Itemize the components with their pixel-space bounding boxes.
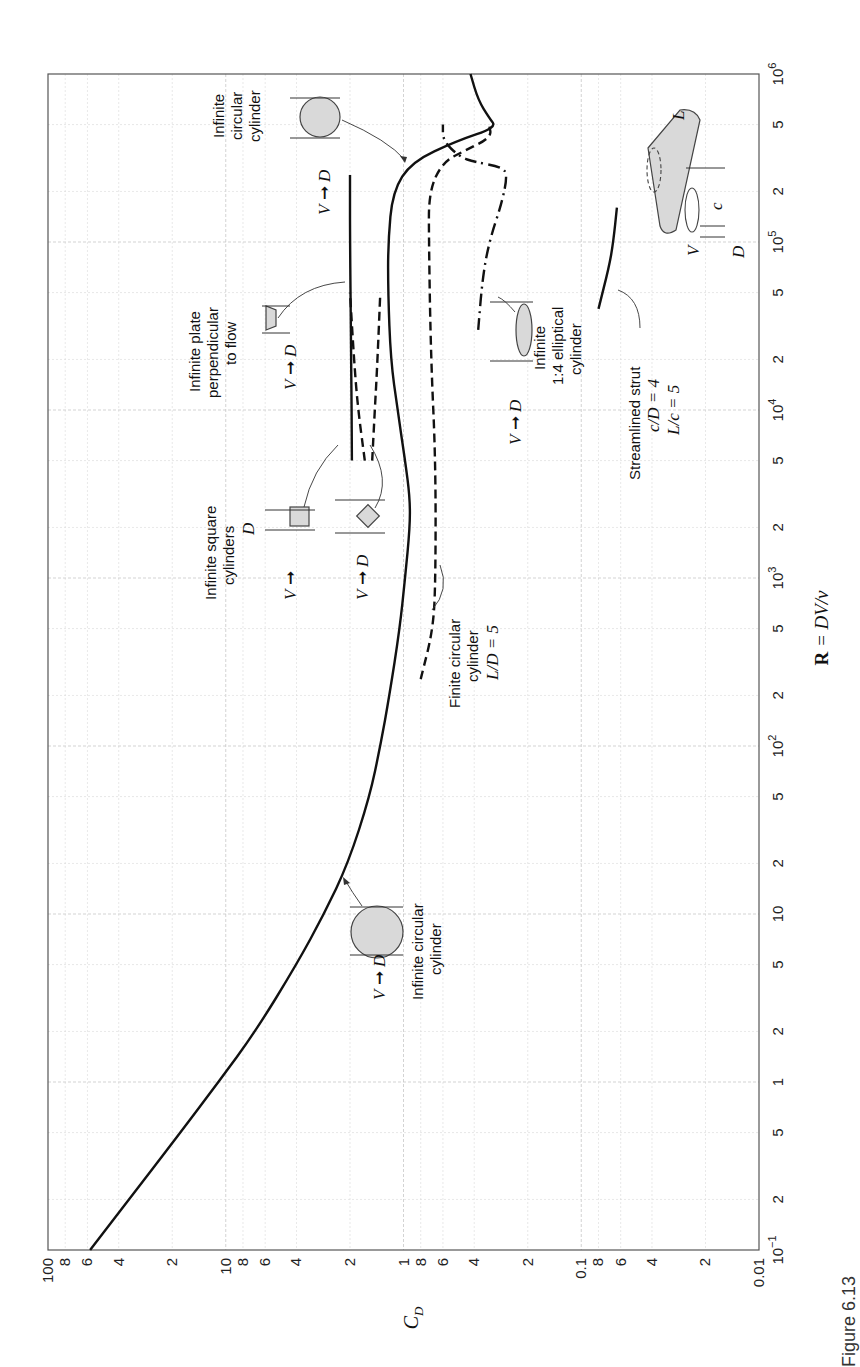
- re-tick-label: 102: [766, 735, 786, 758]
- re-tick-label: 105: [766, 231, 786, 254]
- cd-tick-label: 10: [217, 1258, 234, 1275]
- re-tick-label: 2: [769, 691, 786, 699]
- svg-text:106: 106: [766, 63, 786, 86]
- svg-text:perpendicular: perpendicular: [204, 307, 221, 398]
- svg-text:1:4 elliptical: 1:4 elliptical: [549, 307, 566, 385]
- grid-lines: [48, 74, 759, 1250]
- svg-text:5: 5: [769, 120, 786, 128]
- svg-text:6: 6: [612, 1258, 629, 1266]
- svg-text:2: 2: [769, 355, 786, 363]
- cd-tick-label: 1: [395, 1258, 412, 1266]
- svg-text:5: 5: [769, 288, 786, 296]
- svg-text:Finite circular: Finite circular: [446, 619, 463, 708]
- svg-text:10−1: 10−1: [766, 1235, 786, 1264]
- re-tick-label: 104: [766, 399, 786, 422]
- re-tick-label: 5: [769, 624, 786, 632]
- cd-tick-label: 0.1: [572, 1258, 589, 1279]
- cd-tick-label: 100: [39, 1258, 56, 1283]
- re-tick-label: 5: [769, 120, 786, 128]
- svg-text:104: 104: [766, 399, 786, 422]
- drag-coefficient-chart: 1008642108642186420.186420.01 10−1251251…: [0, 0, 860, 1367]
- annotation-infinite-square-cylinders: Infinite square cylinders D V ➞ V ➞ D: [202, 445, 385, 600]
- svg-text:1: 1: [395, 1258, 412, 1266]
- re-axis-ticks: 10−125125102510225103251042510525106: [766, 63, 786, 1265]
- svg-text:V ➞ D: V ➞ D: [353, 554, 372, 600]
- svg-text:8: 8: [412, 1258, 429, 1266]
- svg-text:V ➞ D: V ➞ D: [370, 954, 389, 1000]
- svg-text:10: 10: [769, 906, 786, 923]
- svg-text:102: 102: [766, 735, 786, 758]
- svg-text:V ➞ D: V ➞ D: [315, 169, 334, 215]
- re-tick-label: 2: [769, 187, 786, 195]
- re-tick-label: 2: [769, 1195, 786, 1203]
- svg-text:6: 6: [256, 1258, 273, 1266]
- svg-text:circular: circular: [228, 92, 245, 140]
- svg-text:8: 8: [589, 1258, 606, 1266]
- svg-text:0.01: 0.01: [750, 1258, 767, 1287]
- svg-text:4: 4: [643, 1258, 660, 1266]
- svg-text:V ➞: V ➞: [281, 571, 300, 600]
- svg-text:8: 8: [234, 1258, 251, 1266]
- cd-tick-label: 6: [612, 1258, 629, 1266]
- svg-text:L/c = 5: L/c = 5: [664, 385, 683, 436]
- svg-text:L: L: [669, 111, 688, 121]
- svg-text:cylinder: cylinder: [464, 630, 481, 682]
- cd-tick-label: 4: [110, 1258, 127, 1266]
- annotation-infinite-plate: Infinite plate perpendicular to flow V ➞…: [186, 282, 345, 398]
- cd-tick-label: 8: [234, 1258, 251, 1266]
- figure-caption: Figure 6.13: [839, 1276, 859, 1367]
- svg-text:6: 6: [78, 1258, 95, 1266]
- re-tick-label: 10: [769, 906, 786, 923]
- re-tick-label: 5: [769, 960, 786, 968]
- circle-cylinder-icon: [351, 906, 403, 958]
- cd-tick-label: 4: [287, 1258, 304, 1266]
- svg-text:2: 2: [519, 1258, 536, 1266]
- svg-text:2: 2: [163, 1258, 180, 1266]
- data-series: [90, 74, 617, 1250]
- svg-text:0.1: 0.1: [572, 1258, 589, 1279]
- svg-text:c/D = 4: c/D = 4: [644, 378, 663, 432]
- svg-text:Infinite square: Infinite square: [202, 506, 219, 600]
- ellipse-cylinder-icon: [516, 304, 532, 356]
- cd-tick-label: 6: [78, 1258, 95, 1266]
- svg-text:4: 4: [287, 1258, 304, 1266]
- re-tick-label: 1: [769, 1078, 786, 1086]
- annotation-streamlined-strut: Streamlined strut c/D = 4 L/c = 5 c L V …: [618, 110, 748, 480]
- svg-text:V ➞ D: V ➞ D: [281, 344, 300, 390]
- svg-text:to flow: to flow: [222, 321, 239, 365]
- re-tick-label: 2: [769, 355, 786, 363]
- re-tick-label: 103: [766, 567, 786, 590]
- cd-tick-label: 8: [56, 1258, 73, 1266]
- annotation-infinite-circular-cylinder-high: Infinite circular cylinder V ➞ D: [210, 90, 407, 215]
- svg-text:Figure 6.13: Figure 6.13: [839, 1276, 859, 1367]
- svg-text:cylinder: cylinder: [427, 923, 444, 975]
- svg-text:L/D = 5: L/D = 5: [483, 625, 502, 681]
- svg-text:Infinite circular: Infinite circular: [409, 903, 426, 1000]
- cd-tick-label: 4: [643, 1258, 660, 1266]
- re-tick-label: 5: [769, 288, 786, 296]
- svg-text:4: 4: [465, 1258, 482, 1266]
- svg-text:CD: CD: [400, 1306, 426, 1329]
- re-tick-label: 106: [766, 63, 786, 86]
- leader-arrow: [345, 880, 362, 906]
- svg-text:c: c: [707, 202, 726, 210]
- svg-text:D: D: [239, 522, 258, 536]
- cd-tick-label: 0.01: [750, 1258, 767, 1287]
- svg-text:2: 2: [769, 859, 786, 867]
- svg-text:2: 2: [696, 1258, 713, 1266]
- series-finite-circular-cylinder-l-d-5: [421, 125, 491, 680]
- svg-text:cylinders: cylinders: [220, 526, 237, 585]
- svg-text:Streamlined strut: Streamlined strut: [626, 366, 643, 480]
- svg-text:cylinder: cylinder: [567, 323, 584, 375]
- cd-tick-label: 2: [163, 1258, 180, 1266]
- svg-text:2: 2: [769, 1195, 786, 1203]
- svg-text:2: 2: [769, 523, 786, 531]
- svg-text:Infinite: Infinite: [210, 94, 227, 138]
- re-tick-label: 2: [769, 859, 786, 867]
- svg-text:R = DV/ν: R = DV/ν: [811, 590, 832, 666]
- cd-axis-ticks: 1008642108642186420.186420.01: [39, 1258, 767, 1287]
- cd-tick-label: 6: [434, 1258, 451, 1266]
- svg-text:2: 2: [769, 691, 786, 699]
- svg-text:D: D: [729, 245, 748, 259]
- svg-text:6: 6: [434, 1258, 451, 1266]
